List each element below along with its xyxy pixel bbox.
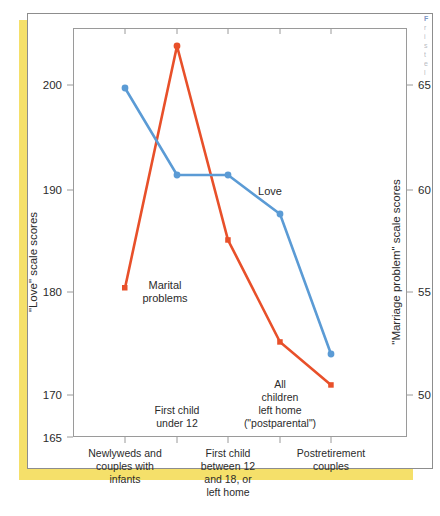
caption-line-7: l [424, 68, 440, 77]
category-label-1: First child under 12 [155, 404, 200, 429]
clipped-side-caption: F r i s t e l [424, 14, 440, 84]
category-label-0-line-1: couples with [96, 460, 154, 472]
left-tick-label-200: 200 [43, 79, 62, 91]
marital-problems-point-1 [174, 43, 181, 50]
caption-line-3: i [424, 32, 440, 41]
love-point-1 [174, 172, 181, 179]
right-tick-label-50: 50 [418, 389, 431, 401]
category-label-1-line-1: under 12 [156, 417, 198, 429]
category-label-3-line-1: children [262, 391, 299, 403]
category-label-2-line-2: and 18, or [204, 473, 252, 485]
love-point-3 [277, 211, 284, 218]
category-label-4-line-0: Postretirement [297, 447, 365, 459]
category-label-3-line-0: All [274, 378, 286, 390]
caption-line-2: r [424, 23, 440, 32]
series-marital-problems [122, 43, 334, 388]
category-label-3: All children left home ("postparental") [244, 378, 316, 429]
left-tick-label-165: 165 [43, 432, 62, 444]
category-label-0: Newlyweds and couples with infants [88, 447, 162, 485]
line-chart: 200 190 180 170 165 "Love" scale scores … [0, 0, 440, 516]
marital-problems-point-0 [122, 285, 128, 291]
series-label-marital-problems-line2: problems [142, 292, 188, 304]
love-point-2 [225, 172, 232, 179]
left-axis-title: "Love" scale scores [27, 212, 39, 312]
caption-line-6: e [424, 59, 440, 68]
category-label-2-line-0: First child [206, 447, 251, 459]
category-label-4-line-1: couples [313, 460, 349, 472]
left-tick-label-180: 180 [43, 286, 62, 298]
category-label-4: Postretirement couples [297, 447, 365, 472]
right-tick-label-55: 55 [418, 286, 431, 298]
right-axis-title: "Marriage problem" scale scores [390, 179, 402, 345]
right-axis-ticks [407, 85, 413, 395]
marital-problems-point-4 [328, 382, 334, 388]
right-tick-label-60: 60 [418, 184, 431, 196]
love-line [125, 88, 331, 354]
left-axis-ticks [67, 85, 73, 437]
category-label-0-line-0: Newlyweds and [88, 447, 162, 459]
category-label-0-line-2: infants [110, 473, 141, 485]
love-point-4 [328, 351, 335, 358]
category-label-2: First child between 12 and 18, or left h… [201, 447, 255, 498]
left-tick-label-170: 170 [43, 389, 62, 401]
left-tick-label-190: 190 [43, 184, 62, 196]
figure-page: 200 190 180 170 165 "Love" scale scores … [0, 0, 440, 516]
category-label-1-line-0: First child [155, 404, 200, 416]
category-label-3-line-3: ("postparental") [244, 417, 316, 429]
category-label-3-line-2: left home [258, 404, 301, 416]
caption-line-5: t [424, 50, 440, 59]
marital-problems-line [125, 46, 331, 385]
marital-problems-point-2 [225, 237, 231, 243]
love-point-0 [122, 85, 129, 92]
category-label-2-line-1: between 12 [201, 460, 255, 472]
category-label-2-line-3: left home [206, 486, 249, 498]
marital-problems-point-3 [277, 339, 283, 345]
series-love [122, 85, 335, 358]
caption-line-4: s [424, 41, 440, 50]
series-label-love: Love [258, 185, 282, 197]
caption-line-1: F [424, 14, 440, 23]
series-label-marital-problems-line1: Marital [148, 279, 181, 291]
